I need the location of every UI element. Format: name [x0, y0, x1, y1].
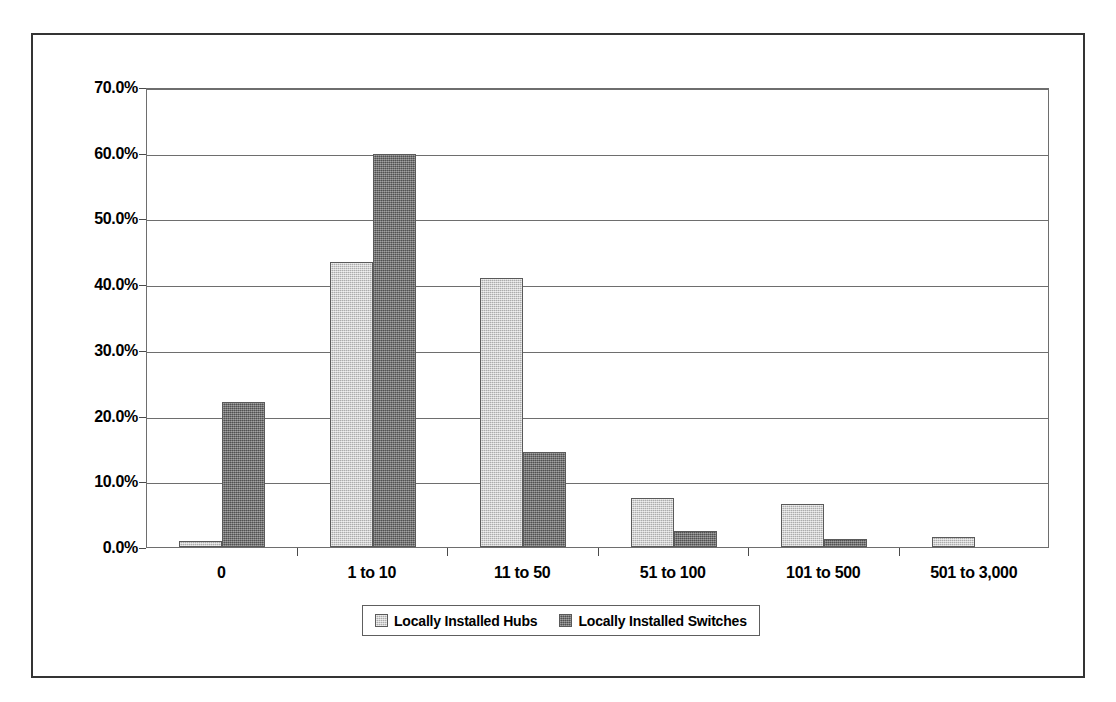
bar-hubs-4 [781, 504, 824, 547]
y-axis-tick-mark [139, 417, 146, 418]
bar-switches-2 [523, 452, 566, 547]
x-axis-tick-mark [447, 548, 448, 556]
x-axis-tick-mark [748, 548, 749, 556]
chart-legend: Locally Installed HubsLocally Installed … [362, 605, 760, 636]
y-axis-tick-mark [139, 482, 146, 483]
y-axis-tick-label: 10.0% [94, 474, 138, 490]
y-axis-labels: 0.0%10.0%20.0%30.0%40.0%50.0%60.0%70.0% [40, 0, 138, 702]
gridline [147, 352, 1048, 353]
y-axis-tick-mark [139, 548, 146, 549]
y-axis-tick-mark [139, 351, 146, 352]
y-axis-tick-label: 30.0% [94, 343, 138, 359]
y-axis-tick-label: 60.0% [94, 146, 138, 162]
gridline [147, 286, 1048, 287]
chart-figure: 0.0%10.0%20.0%30.0%40.0%50.0%60.0%70.0% … [0, 0, 1116, 702]
gridline [147, 483, 1048, 484]
y-axis-tick-label: 70.0% [94, 80, 138, 96]
gridline [147, 220, 1048, 221]
bar-switches-0 [222, 402, 265, 547]
plot-area [146, 88, 1049, 548]
y-axis-tick-mark [139, 154, 146, 155]
y-axis-tick-label: 20.0% [94, 409, 138, 425]
legend-item-switches: Locally Installed Switches [559, 613, 746, 629]
bar-switches-3 [674, 531, 717, 547]
legend-label: Locally Installed Hubs [394, 613, 537, 629]
bar-hubs-5 [932, 537, 975, 547]
bar-hubs-1 [330, 262, 373, 547]
legend-swatch-icon [375, 614, 388, 627]
gridline [147, 89, 1048, 90]
y-axis-tick-label: 0.0% [103, 540, 138, 556]
bar-hubs-3 [631, 498, 674, 547]
legend-swatch-icon [559, 614, 572, 627]
bar-hubs-2 [480, 278, 523, 547]
bar-hubs-0 [179, 541, 222, 547]
x-axis-tick-mark [899, 548, 900, 556]
x-axis-tick-label: 501 to 3,000 [874, 564, 1074, 582]
y-axis-tick-mark [139, 88, 146, 89]
y-axis-tick-mark [139, 285, 146, 286]
x-axis-tick-mark [598, 548, 599, 556]
y-axis-tick-mark [139, 219, 146, 220]
legend-item-hubs: Locally Installed Hubs [375, 613, 537, 629]
x-axis-tick-mark [297, 548, 298, 556]
y-axis-tick-label: 40.0% [94, 277, 138, 293]
y-axis-tick-label: 50.0% [94, 211, 138, 227]
bar-switches-1 [373, 154, 416, 547]
gridline [147, 418, 1048, 419]
bar-switches-4 [824, 539, 867, 547]
legend-label: Locally Installed Switches [578, 613, 746, 629]
gridline [147, 155, 1048, 156]
